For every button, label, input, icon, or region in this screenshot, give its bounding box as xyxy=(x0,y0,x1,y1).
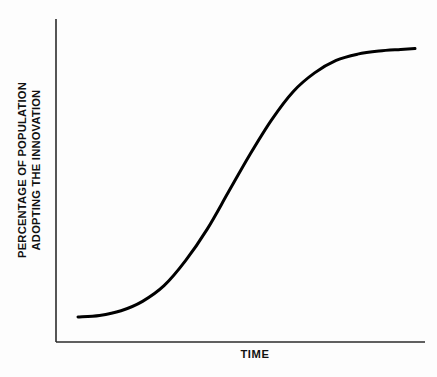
x-axis-label: TIME xyxy=(72,348,437,360)
chart-plot-area xyxy=(0,0,437,377)
adoption-s-curve-line xyxy=(78,49,415,318)
s-curve-chart: PERCENTAGE OF POPULATION ADOPTING THE IN… xyxy=(0,0,437,377)
